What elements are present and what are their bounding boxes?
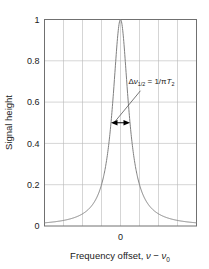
fwhm-label: Δν1/2 = 1/πT2 — [128, 77, 174, 87]
y-tick-label: 0.6 — [27, 97, 40, 107]
y-tick-label: 0.4 — [27, 139, 40, 149]
y-tick-label: 0.8 — [27, 56, 40, 66]
chart-canvas: 00.20.40.60.81 0 Δν1/2 = 1/πT2 Signal he… — [0, 0, 209, 269]
lorentzian-lineshape-figure: 00.20.40.60.81 0 Δν1/2 = 1/πT2 Signal he… — [0, 0, 209, 269]
y-tick-label: 1 — [34, 15, 39, 25]
y-axis-title: Signal height — [3, 95, 14, 150]
x-tick-label: 0 — [118, 232, 123, 242]
y-tick-label: 0.2 — [27, 180, 40, 190]
x-axis-title: Frequency offset, ν − ν0 — [70, 250, 170, 263]
x-tick-labels: 0 — [118, 232, 123, 242]
y-tick-label: 0 — [34, 221, 39, 231]
